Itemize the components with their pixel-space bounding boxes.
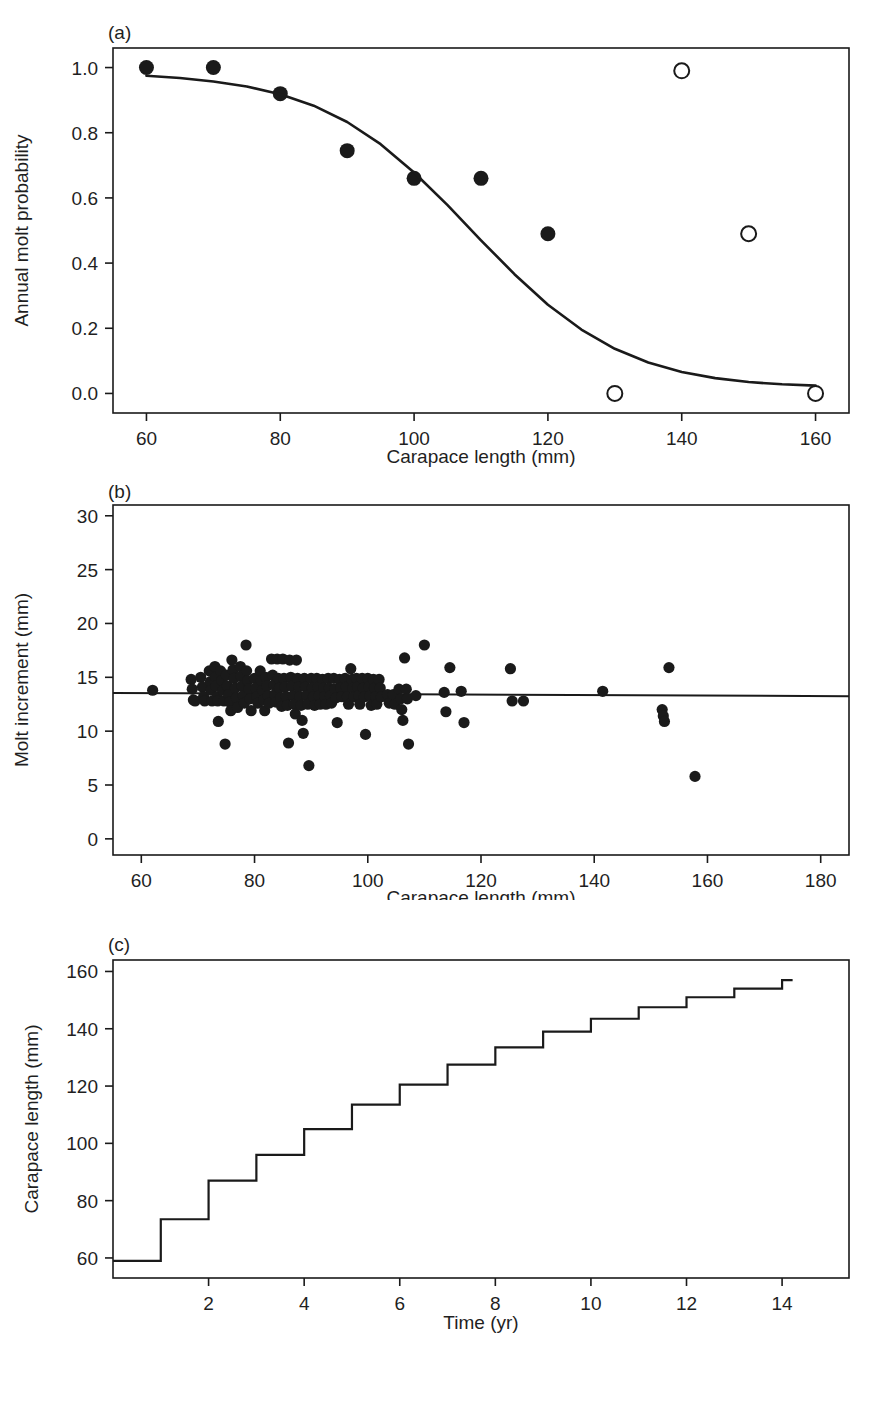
- data-point: [297, 715, 308, 726]
- y-tick-label: 5: [87, 775, 98, 796]
- data-point: [360, 729, 371, 740]
- data-point: [186, 674, 197, 685]
- y-tick-label: 0: [87, 829, 98, 850]
- y-tick-label: 25: [77, 560, 98, 581]
- y-tick-label: 1.0: [72, 58, 98, 79]
- x-tick-label: 100: [352, 870, 384, 891]
- data-point: [444, 662, 455, 673]
- data-point: [518, 695, 529, 706]
- plot-frame: [113, 960, 849, 1278]
- x-tick-label: 180: [805, 870, 837, 891]
- x-tick-label: 160: [800, 428, 832, 449]
- data-point: [283, 737, 294, 748]
- x-tick-label: 140: [666, 428, 698, 449]
- data-point: [439, 687, 450, 698]
- data-point: [396, 704, 407, 715]
- data-point-open: [741, 226, 756, 241]
- data-point: [139, 60, 154, 75]
- data-point: [410, 690, 421, 701]
- x-tick-label: 8: [490, 1293, 501, 1314]
- data-point: [397, 715, 408, 726]
- data-point: [340, 143, 355, 158]
- panel-c-plot: 24681012146080100120140160Time (yr)Carap…: [0, 895, 880, 1411]
- data-point: [399, 652, 410, 663]
- panel-a-plot: 60801001201401600.00.20.40.60.81.0Carapa…: [0, 0, 880, 470]
- data-point: [213, 716, 224, 727]
- y-tick-label: 160: [66, 961, 98, 982]
- data-point: [206, 60, 221, 75]
- data-point: [659, 716, 670, 727]
- data-point: [240, 639, 251, 650]
- data-point: [403, 738, 414, 749]
- data-point: [303, 760, 314, 771]
- data-point: [458, 717, 469, 728]
- y-tick-label: 120: [66, 1076, 98, 1097]
- panel-c: (c) 24681012146080100120140160Time (yr)C…: [0, 895, 880, 1411]
- x-tick-label: 4: [299, 1293, 310, 1314]
- y-tick-label: 15: [77, 667, 98, 688]
- x-tick-label: 2: [203, 1293, 214, 1314]
- y-tick-label: 80: [77, 1191, 98, 1212]
- y-axis-title: Annual molt probability: [11, 134, 32, 327]
- y-tick-label: 20: [77, 613, 98, 634]
- y-tick-label: 0.4: [72, 253, 99, 274]
- data-point: [456, 686, 467, 697]
- x-tick-label: 160: [692, 870, 724, 891]
- fitted-curve: [146, 76, 815, 386]
- data-point: [597, 686, 608, 697]
- y-axis-title: Molt increment (mm): [11, 593, 32, 767]
- data-point: [291, 654, 302, 665]
- data-point: [689, 771, 700, 782]
- x-tick-label: 60: [131, 870, 152, 891]
- panel-b-plot: 6080100120140160180051015202530Carapace …: [0, 460, 880, 900]
- x-axis-title: Time (yr): [443, 1312, 518, 1333]
- y-tick-label: 100: [66, 1133, 98, 1154]
- data-point: [298, 728, 309, 739]
- plot-frame: [113, 48, 849, 413]
- x-tick-label: 14: [772, 1293, 794, 1314]
- data-point: [419, 639, 430, 650]
- data-point-open: [674, 63, 689, 78]
- data-point: [663, 662, 674, 673]
- data-point: [474, 171, 489, 186]
- figure-container: (a) 60801001201401600.00.20.40.60.81.0Ca…: [0, 0, 880, 1411]
- panel-a-tag: (a): [108, 22, 131, 44]
- data-point: [505, 663, 516, 674]
- y-axis-title: Carapace length (mm): [21, 1024, 42, 1213]
- y-tick-label: 10: [77, 721, 98, 742]
- data-point: [187, 684, 198, 695]
- panel-a: (a) 60801001201401600.00.20.40.60.81.0Ca…: [0, 0, 880, 470]
- x-tick-label: 140: [578, 870, 610, 891]
- x-tick-label: 80: [270, 428, 291, 449]
- panel-c-tag: (c): [108, 934, 130, 956]
- y-tick-label: 140: [66, 1019, 98, 1040]
- y-tick-label: 0.6: [72, 188, 98, 209]
- x-tick-label: 6: [394, 1293, 405, 1314]
- y-tick-label: 30: [77, 506, 98, 527]
- data-point: [401, 684, 412, 695]
- data-point-open: [607, 386, 622, 401]
- y-tick-label: 0.0: [72, 383, 98, 404]
- x-tick-label: 10: [580, 1293, 601, 1314]
- data-point-open: [808, 386, 823, 401]
- panel-b-tag: (b): [108, 481, 131, 503]
- data-point: [332, 717, 343, 728]
- x-tick-label: 80: [244, 870, 265, 891]
- data-point: [147, 685, 158, 696]
- data-point: [440, 706, 451, 717]
- x-tick-label: 60: [136, 428, 157, 449]
- data-point: [507, 695, 518, 706]
- y-tick-label: 0.8: [72, 123, 98, 144]
- x-tick-label: 12: [676, 1293, 697, 1314]
- data-point: [220, 738, 231, 749]
- data-point: [345, 663, 356, 674]
- y-tick-label: 60: [77, 1248, 98, 1269]
- step-trajectory: [113, 980, 793, 1261]
- data-point: [540, 226, 555, 241]
- panel-b: (b) 6080100120140160180051015202530Carap…: [0, 460, 880, 900]
- y-tick-label: 0.2: [72, 318, 98, 339]
